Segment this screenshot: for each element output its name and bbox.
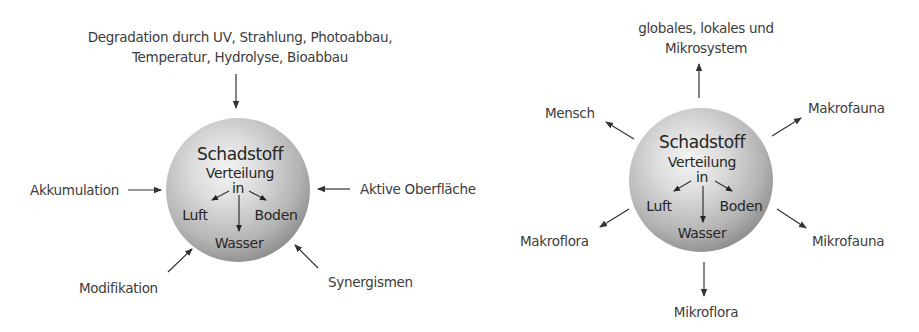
- compartment-air: Luft: [182, 207, 208, 223]
- degradation-label-line2: Temperatur, Hydrolyse, Bioabbau: [131, 49, 348, 65]
- arrow-up-left-icon: [606, 122, 634, 139]
- microfauna-label: Mikrofauna: [812, 233, 884, 249]
- arrow-down-left-icon: [600, 209, 629, 227]
- human-label: Mensch: [545, 105, 595, 121]
- diagram-canvas: Degradation durch UV, Strahlung, Photoab…: [0, 0, 919, 332]
- arrow-up-right-icon: [772, 118, 801, 136]
- system-label-line1: globales, lokales und: [638, 20, 774, 36]
- macrofauna-label: Makrofauna: [808, 100, 885, 116]
- modification-label: Modifikation: [79, 280, 158, 296]
- system-label-line2: Mikrosystem: [665, 40, 747, 56]
- compartment-soil: Boden: [254, 207, 297, 223]
- sphere-distribution-label: Verteilung: [668, 154, 736, 170]
- right-diagram: globales, lokales und Mikrosystem Schads…: [520, 20, 885, 320]
- arrow-up-right-icon: [168, 249, 192, 272]
- sphere-title: Schadstoff: [197, 144, 284, 164]
- arrow-up-left-icon: [295, 245, 318, 268]
- compartment-water: Wasser: [678, 225, 727, 241]
- sphere-title: Schadstoff: [659, 132, 746, 152]
- compartment-soil: Boden: [719, 198, 762, 214]
- sphere-in-label: in: [696, 169, 708, 185]
- compartment-air: Luft: [646, 198, 672, 214]
- active-surface-label: Aktive Oberfläche: [360, 181, 476, 197]
- microflora-label: Mikroflora: [674, 304, 738, 320]
- left-diagram: Degradation durch UV, Strahlung, Photoab…: [30, 29, 476, 296]
- degradation-label-line1: Degradation durch UV, Strahlung, Photoab…: [88, 29, 393, 45]
- compartment-water: Wasser: [215, 235, 264, 251]
- synergisms-label: Synergismen: [328, 274, 413, 290]
- arrow-down-right-icon: [777, 209, 806, 228]
- macroflora-label: Makroflora: [520, 233, 589, 249]
- accumulation-label: Akkumulation: [30, 182, 119, 198]
- sphere-in-label: in: [232, 180, 244, 196]
- sphere-distribution-label: Verteilung: [206, 165, 274, 181]
